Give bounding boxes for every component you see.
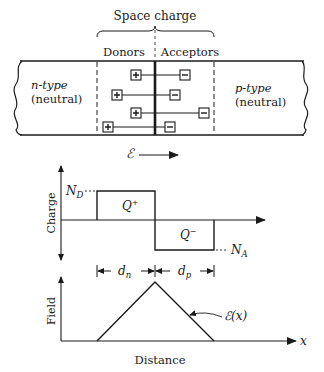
- dp-label: dp: [178, 264, 192, 280]
- q-plus-label: Q+: [122, 198, 139, 213]
- ion-pair: [103, 122, 175, 132]
- acceptors-label: Acceptors: [160, 45, 219, 59]
- nd-label: ND: [65, 184, 84, 200]
- left-break-edge: [14, 61, 22, 135]
- na-label: NA: [230, 243, 248, 259]
- field-curve-label: ℰ(x): [224, 309, 247, 323]
- ion-pair: [131, 108, 209, 118]
- p-type-label: p-type: [235, 81, 272, 95]
- ion-pair: [131, 70, 190, 80]
- space-charge-header: Space charge Donors Acceptors: [97, 9, 219, 60]
- space-charge-brace: [97, 26, 214, 37]
- p-neutral-label: (neutral): [235, 95, 286, 109]
- donors-label: Donors: [103, 45, 145, 59]
- curve-label-leader-icon: [190, 313, 222, 317]
- field-profile-triangle: [97, 282, 214, 341]
- depletion-width-dimensions: dn dp: [97, 264, 214, 280]
- field-direction: ℰ: [126, 146, 178, 161]
- distance-axis-label: Distance: [135, 353, 186, 367]
- n-type-label: n-type: [31, 78, 68, 92]
- charge-plot: Charge ND NA Q+ Q−: [45, 166, 265, 260]
- field-axis-label: Field: [45, 297, 58, 325]
- ion-pair: [112, 90, 180, 100]
- dn-label: dn: [118, 264, 131, 280]
- charge-axis-label: Charge: [45, 193, 58, 234]
- right-break-edge: [302, 61, 308, 135]
- x-axis-symbol: x: [300, 334, 307, 348]
- space-charge-label: Space charge: [114, 9, 197, 23]
- pn-junction-diagram: Space charge Donors Acceptors n-type (ne…: [0, 0, 324, 372]
- field-symbol: ℰ: [126, 146, 135, 161]
- field-plot: Field x Distance ℰ(x): [45, 277, 307, 367]
- q-minus-label: Q−: [180, 227, 197, 242]
- n-neutral-label: (neutral): [31, 92, 82, 106]
- junction-bar: n-type (neutral) p-type (neutral): [14, 61, 308, 135]
